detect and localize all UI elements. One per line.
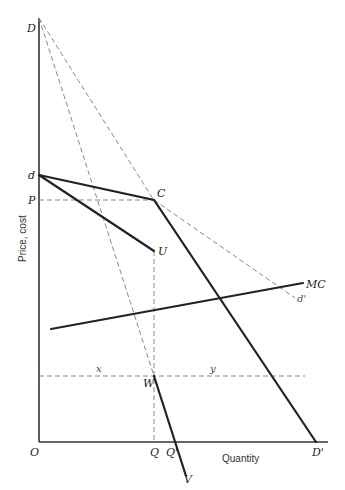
- label-V: V: [184, 473, 193, 486]
- label-C: C: [157, 187, 166, 200]
- label-Q: Q: [150, 446, 159, 459]
- dashed-demand-extension-C-d-prime: [154, 200, 295, 298]
- label-D-prime: D': [311, 446, 324, 459]
- kinked-demand-diagram: D d P C U d' MC x y W O Q Q' D' V Quanti…: [0, 0, 345, 490]
- y-axis-title: Price, cost: [17, 215, 28, 262]
- marginal-cost-curve: [51, 283, 303, 329]
- label-Q-prime: Q': [166, 446, 178, 459]
- label-origin-O: O: [30, 446, 39, 459]
- label-d-prime: d': [297, 293, 306, 304]
- label-d: d: [28, 169, 35, 182]
- label-MC: MC: [305, 278, 326, 291]
- label-D: D: [26, 22, 36, 35]
- dashed-line-D-to-C: [39, 18, 160, 210]
- label-U: U: [158, 245, 168, 258]
- kinked-demand-curve-d-C-D-prime: [39, 175, 316, 442]
- label-W: W: [143, 377, 156, 390]
- label-P: P: [27, 194, 36, 207]
- label-x: x: [96, 363, 102, 374]
- label-y: y: [209, 363, 216, 374]
- marginal-revenue-lower-W-V: [154, 376, 186, 476]
- x-axis-title: Quantity: [222, 453, 259, 464]
